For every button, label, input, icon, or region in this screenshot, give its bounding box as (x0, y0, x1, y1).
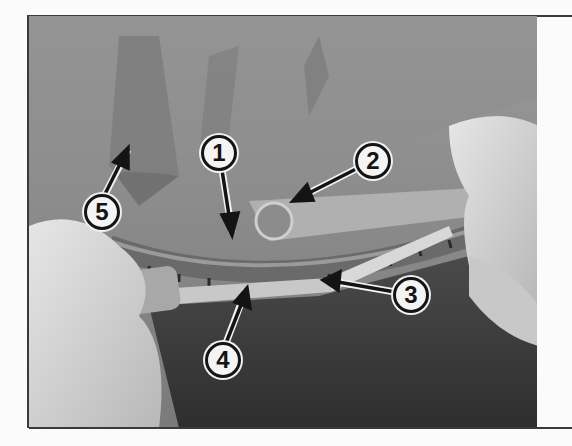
callout-arrows (0, 0, 572, 446)
callout-3: 3 (393, 277, 429, 313)
callout-4: 4 (205, 342, 241, 378)
callout-2: 2 (355, 143, 391, 179)
callout-5: 5 (84, 194, 120, 230)
callout-1: 1 (201, 135, 237, 171)
